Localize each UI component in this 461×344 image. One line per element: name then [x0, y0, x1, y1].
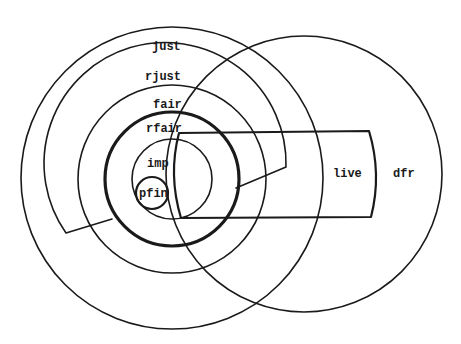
- label-imp: imp: [147, 157, 169, 171]
- label-rfair: rfair: [146, 122, 182, 136]
- label-live: live: [333, 167, 362, 181]
- label-rjust: rjust: [145, 70, 181, 84]
- label-just: just: [152, 40, 181, 54]
- label-fair: fair: [153, 98, 182, 112]
- label-pfin: pfin: [139, 187, 168, 201]
- label-dfr: dfr: [393, 167, 415, 181]
- set-diagram: just rjust fair rfair imp pfin live dfr: [0, 0, 461, 344]
